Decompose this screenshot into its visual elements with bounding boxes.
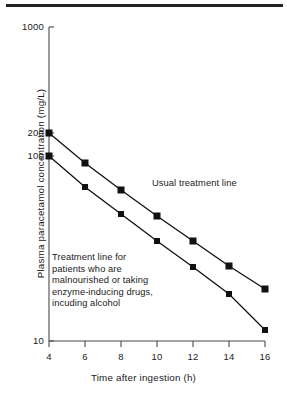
data-point-marker xyxy=(262,286,269,293)
annotation-high-risk-treatment-line: Treatment line for patients who are maln… xyxy=(52,252,153,310)
data-point-marker xyxy=(154,213,161,220)
data-point-marker xyxy=(82,184,88,190)
x-axis-ticks xyxy=(49,341,265,347)
x-tick-label-6: 6 xyxy=(71,351,99,362)
annotation-usual-treatment-line: Usual treatment line xyxy=(152,178,237,190)
data-point-marker xyxy=(82,160,89,167)
x-tick-label-4: 4 xyxy=(35,351,63,362)
x-tick-label-12: 12 xyxy=(179,351,207,362)
data-point-marker xyxy=(226,291,232,297)
data-point-marker xyxy=(262,327,268,333)
x-axis-title: Time after ingestion (h) xyxy=(0,372,287,383)
x-tick-label-10: 10 xyxy=(143,351,171,362)
data-point-marker xyxy=(46,130,53,137)
data-point-marker xyxy=(118,187,125,194)
data-point-marker xyxy=(154,238,160,244)
data-point-marker xyxy=(118,211,124,217)
y-tick-label-1000: 1000 xyxy=(8,21,44,32)
x-tick-label-16: 16 xyxy=(251,351,279,362)
data-point-marker xyxy=(46,153,53,160)
x-tick-label-14: 14 xyxy=(215,351,243,362)
plot-area: 1000 200 100 10 4 6 8 10 12 14 16 Time a… xyxy=(0,0,287,401)
y-tick-label-10: 10 xyxy=(8,335,44,346)
x-tick-label-8: 8 xyxy=(107,351,135,362)
figure: 1000 200 100 10 4 6 8 10 12 14 16 Time a… xyxy=(0,0,287,401)
data-point-marker xyxy=(190,264,196,270)
data-point-marker xyxy=(226,263,233,270)
data-point-marker xyxy=(190,238,197,245)
y-axis-title: Plasma paracetamol concentration (mg/L) xyxy=(35,59,46,309)
